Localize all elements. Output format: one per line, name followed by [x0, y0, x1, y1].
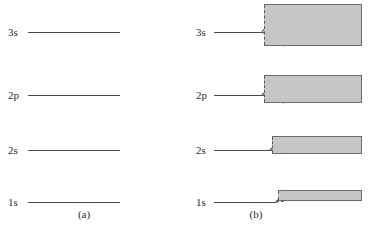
energy-band-stub-line-1s — [214, 202, 276, 203]
energy-band-diagram: 3s 2p 2s 1s (a) 3s 2p — [0, 0, 376, 234]
energy-band-block-2s — [272, 136, 362, 154]
energy-band-block-3s — [264, 4, 362, 46]
energy-band-block-1s — [278, 190, 362, 201]
panel-b-caption: (b) — [236, 208, 276, 220]
energy-band-block-2p — [264, 75, 362, 103]
band-left-dashed-edge-2p — [264, 76, 265, 102]
energy-band-stub-line-2p — [214, 95, 262, 96]
energy-level-3s: 3s — [0, 22, 188, 42]
energy-level-line-3s — [28, 32, 120, 33]
energy-band-3s: 3s — [188, 22, 376, 42]
energy-level-2s: 2s — [0, 140, 188, 160]
panel-a-discrete-levels: 3s 2p 2s 1s (a) — [0, 0, 188, 234]
energy-band-stub-line-3s — [214, 32, 262, 33]
energy-band-2p: 2p — [188, 85, 376, 105]
energy-band-2s: 2s — [188, 140, 376, 160]
band-left-dashed-edge-2s — [272, 137, 273, 153]
energy-level-2p: 2p — [0, 85, 188, 105]
band-left-dashed-edge-1s — [278, 191, 279, 200]
energy-level-line-2s — [28, 150, 120, 151]
band-left-dashed-edge-3s — [264, 5, 265, 45]
energy-band-stub-line-2s — [214, 150, 270, 151]
energy-level-line-1s — [28, 202, 120, 203]
panel-a-caption: (a) — [64, 208, 104, 220]
energy-level-line-2p — [28, 95, 120, 96]
panel-b-energy-bands: 3s 2p 2s 1s — [188, 0, 376, 234]
energy-band-1s: 1s — [188, 192, 376, 212]
